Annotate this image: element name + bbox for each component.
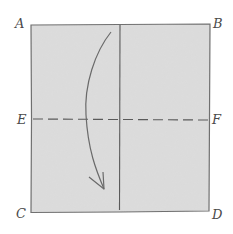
label-d: D	[211, 207, 223, 222]
label-e: E	[16, 112, 27, 127]
label-f: F	[211, 112, 222, 127]
label-b: B	[212, 16, 223, 31]
label-c: C	[16, 206, 26, 221]
origami-diagram: A B E F C D	[0, 0, 233, 234]
label-a: A	[14, 16, 24, 31]
center-crease-line	[120, 25, 121, 210]
paper-square	[31, 24, 210, 213]
